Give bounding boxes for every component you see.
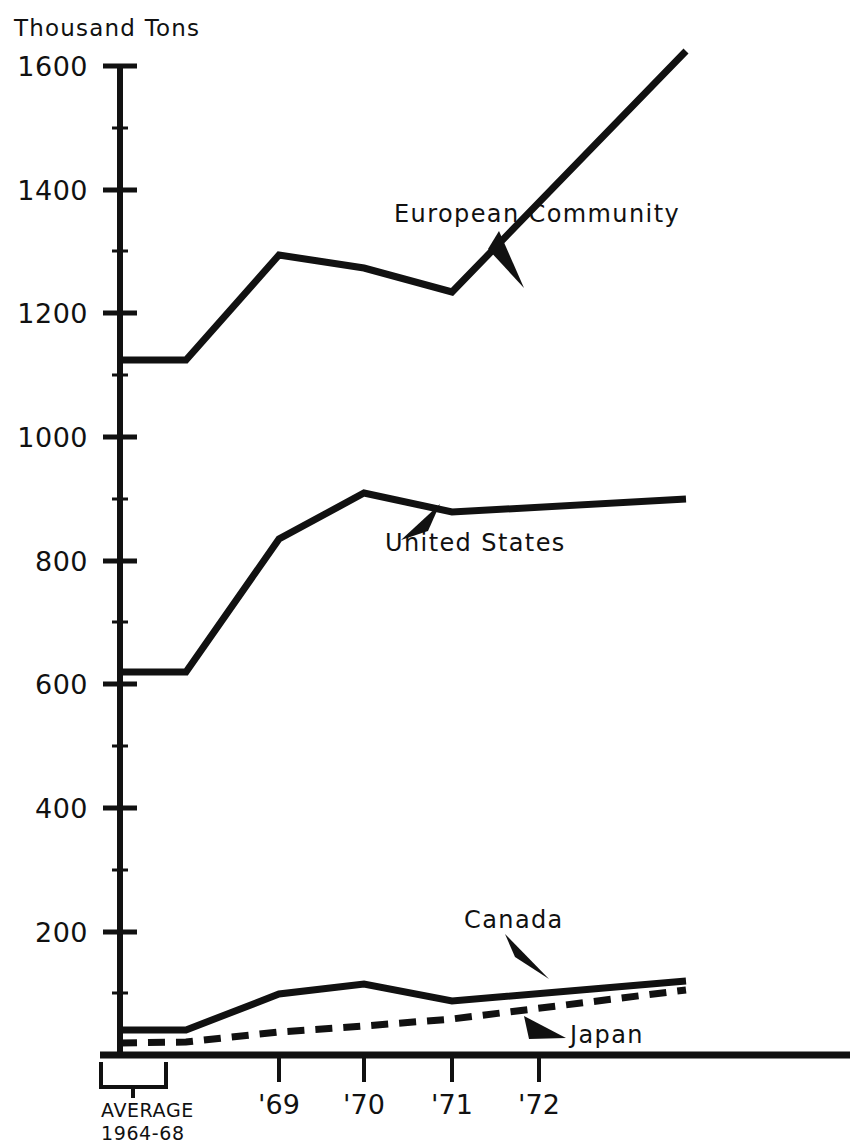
- y-tick-label-1000: 1000: [17, 422, 88, 453]
- series-label-european-community: European Community: [394, 200, 680, 228]
- y-axis-unit-label: Thousand Tons: [13, 15, 200, 41]
- y-tick-label-1400: 1400: [17, 175, 88, 206]
- y-tick-label-800: 800: [35, 546, 88, 577]
- chart-container: Thousand Tons 160: [0, 0, 863, 1145]
- series-united-states: United States: [120, 493, 686, 672]
- average-bracket-label-line2: 1964-68: [101, 1122, 185, 1144]
- y-tick-label-200: 200: [35, 917, 88, 948]
- x-tick-label-70: '70: [343, 1089, 385, 1120]
- x-tick-label-71: '71: [431, 1089, 473, 1120]
- y-tick-label-400: 400: [35, 793, 88, 824]
- series-line-united-states: [120, 493, 686, 672]
- line-chart: Thousand Tons 160: [0, 0, 863, 1145]
- series-label-japan: Japan: [568, 1021, 644, 1049]
- y-axis-tick-labels: 1600 1400 1200 1000 800 600 400 200: [17, 51, 88, 948]
- y-tick-label-1200: 1200: [17, 298, 88, 329]
- x-tick-label-72: '72: [518, 1089, 560, 1120]
- series-european-community: European Community: [120, 51, 686, 360]
- average-bracket-label-line1: AVERAGE: [101, 1099, 194, 1121]
- average-period-bracket: AVERAGE 1964-68: [101, 1062, 194, 1144]
- x-axis-ticks: [279, 1055, 539, 1082]
- y-tick-label-1600: 1600: [17, 51, 88, 82]
- pointer-arrow-japan: [524, 1016, 566, 1039]
- x-tick-label-69: '69: [258, 1089, 300, 1120]
- series-canada: Canada: [120, 906, 686, 1030]
- series-label-canada: Canada: [464, 906, 564, 934]
- y-tick-label-600: 600: [35, 669, 88, 700]
- pointer-arrow-canada: [505, 934, 549, 979]
- x-axis-tick-labels: '69 '70 '71 '72: [258, 1089, 560, 1120]
